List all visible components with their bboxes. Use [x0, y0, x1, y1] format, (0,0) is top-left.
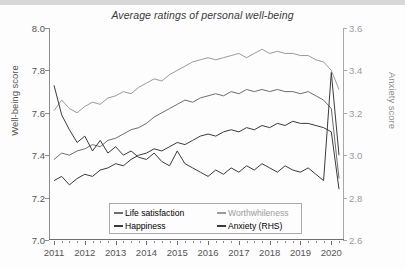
x-minor-tick [200, 241, 201, 243]
x-tick-mark [116, 241, 117, 245]
x-tick-mark [270, 241, 271, 245]
y-tick-mark [45, 240, 49, 241]
x-tick-label: 2017 [228, 247, 249, 258]
x-minor-tick [154, 241, 155, 243]
x-minor-tick [339, 241, 340, 243]
x-tick-mark [177, 241, 178, 245]
legend-label: Happiness [125, 221, 166, 231]
y-tick-label-right: 3.0 [349, 150, 362, 161]
series-line-anxiety-rhs [54, 73, 339, 181]
x-minor-tick [77, 241, 78, 243]
x-tick-label: 2020 [321, 247, 342, 258]
y-tick-label-right: 3.4 [349, 65, 362, 76]
x-minor-tick [216, 241, 217, 243]
x-tick-mark [239, 241, 240, 245]
x-minor-tick [193, 241, 194, 243]
x-minor-tick [293, 241, 294, 243]
chart-title: Average ratings of personal well-being [0, 9, 405, 21]
x-minor-tick [324, 241, 325, 243]
x-minor-tick [100, 241, 101, 243]
legend-item-anxiety[interactable]: Anxiety (RHS) [217, 221, 282, 231]
x-minor-tick [223, 241, 224, 243]
x-tick-mark [54, 241, 55, 245]
legend-label: Anxiety (RHS) [228, 221, 282, 231]
x-minor-tick [139, 241, 140, 243]
y-tick-label-left: 7.2 [32, 192, 45, 203]
chart-legend: Life satisfaction Worthwhileness Happine… [109, 203, 302, 234]
x-minor-tick [170, 241, 171, 243]
y-tick-mark [343, 240, 347, 241]
x-minor-tick [247, 241, 248, 243]
x-tick-mark [146, 241, 147, 245]
x-minor-tick [162, 241, 163, 243]
x-minor-tick [316, 241, 317, 243]
y-tick-label-left: 7.6 [32, 107, 45, 118]
x-minor-tick [285, 241, 286, 243]
x-tick-mark [208, 241, 209, 245]
x-tick-label: 2012 [74, 247, 95, 258]
legend-swatch-icon [217, 225, 226, 227]
x-tick-label: 2014 [136, 247, 157, 258]
y-tick-label-left: 7.8 [32, 65, 45, 76]
x-minor-tick [69, 241, 70, 243]
legend-label: Worthwhileness [228, 208, 289, 218]
x-minor-tick [262, 241, 263, 243]
x-tick-label: 2013 [105, 247, 126, 258]
y-tick-label-left: 7.4 [32, 150, 45, 161]
x-tick-label: 2019 [290, 247, 311, 258]
series-line-happiness [54, 121, 339, 189]
legend-label: Life satisfaction [125, 208, 184, 218]
y-axis-label-right: Anxiety score [387, 61, 398, 141]
x-tick-label: 2016 [197, 247, 218, 258]
legend-swatch-icon [114, 212, 123, 214]
x-minor-tick [62, 241, 63, 243]
x-tick-mark [300, 241, 301, 245]
legend-swatch-icon [217, 212, 226, 214]
legend-item-life-satisfaction[interactable]: Life satisfaction [114, 208, 217, 218]
x-tick-label: 2015 [167, 247, 188, 258]
x-tick-label: 2018 [259, 247, 280, 258]
y-axis-label-left: Well-being score [9, 61, 20, 141]
x-minor-tick [308, 241, 309, 243]
x-minor-tick [254, 241, 255, 243]
chart-container: Average ratings of personal well-being W… [0, 0, 405, 269]
y-tick-label-right: 3.2 [349, 107, 362, 118]
top-strip [0, 0, 405, 5]
x-minor-tick [108, 241, 109, 243]
x-tick-label: 2011 [44, 247, 64, 258]
y-tick-label-left: 8.0 [32, 23, 45, 34]
x-minor-tick [185, 241, 186, 243]
legend-item-happiness[interactable]: Happiness [114, 221, 217, 231]
series-line-worthwhileness [54, 49, 339, 113]
legend-row-2: Happiness Anxiety (RHS) [114, 219, 297, 232]
series-line-life-satisfaction [54, 89, 339, 178]
y-tick-label-left: 7.0 [32, 235, 45, 246]
x-tick-mark [331, 241, 332, 245]
x-minor-tick [277, 241, 278, 243]
x-minor-tick [123, 241, 124, 243]
y-tick-label-right: 2.6 [349, 235, 362, 246]
x-minor-tick [131, 241, 132, 243]
x-minor-tick [93, 241, 94, 243]
y-tick-label-right: 2.8 [349, 192, 362, 203]
legend-item-worthwhileness[interactable]: Worthwhileness [217, 208, 289, 218]
x-minor-tick [231, 241, 232, 243]
legend-row-1: Life satisfaction Worthwhileness [114, 206, 297, 219]
x-tick-mark [85, 241, 86, 245]
y-tick-label-right: 3.6 [349, 23, 362, 34]
legend-swatch-icon [114, 225, 123, 227]
